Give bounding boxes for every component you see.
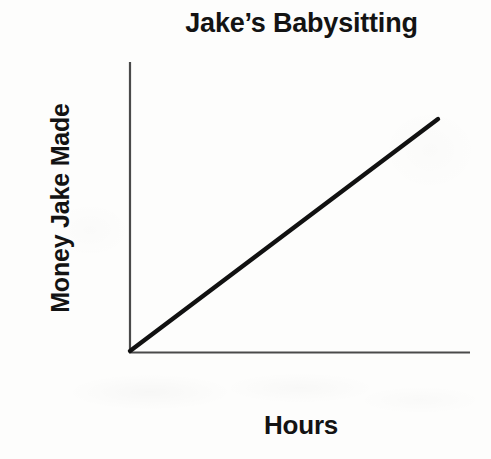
x-axis-label: Hours	[264, 410, 338, 441]
plot-area	[0, 0, 491, 459]
data-line-money-earned	[130, 119, 438, 351]
chart-page: Jake’s Babysitting Money Jake Made Hours	[0, 0, 491, 459]
